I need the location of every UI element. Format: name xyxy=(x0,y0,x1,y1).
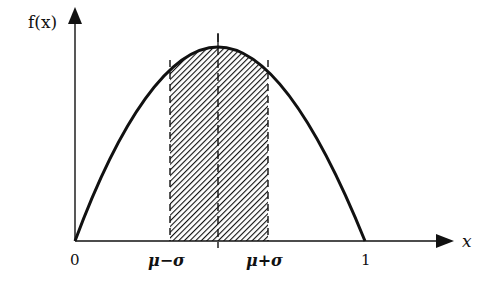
shaded-region xyxy=(170,30,268,241)
tick-label-one: 1 xyxy=(361,251,371,269)
tick-label-mu-plus-sigma: μ+σ xyxy=(246,251,283,270)
density-diagram: f(x) x 0 μ−σ μ+σ 1 xyxy=(0,0,490,285)
tick-label-mu-minus-sigma: μ−σ xyxy=(148,251,185,270)
tick-label-origin: 0 xyxy=(70,251,80,269)
y-axis xyxy=(68,7,82,241)
y-axis-arrow-icon xyxy=(68,7,82,24)
x-axis-label: x xyxy=(462,231,472,251)
y-axis-label: f(x) xyxy=(28,12,57,32)
x-axis-arrow-icon xyxy=(436,234,454,248)
